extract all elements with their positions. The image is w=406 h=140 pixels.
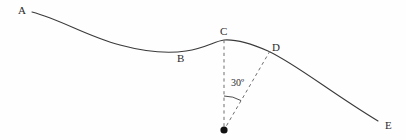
point-label-e: E xyxy=(385,120,392,131)
point-label-a: A xyxy=(18,5,26,16)
angle-value-label: 30º xyxy=(231,78,244,88)
point-label-c: C xyxy=(220,26,227,37)
figure-container: A B C D E 30º xyxy=(0,0,406,140)
diagram-canvas xyxy=(0,0,406,140)
point-label-b: B xyxy=(177,53,184,64)
origin-dot xyxy=(220,126,227,133)
point-label-d: D xyxy=(272,42,280,53)
main-curve xyxy=(32,12,378,121)
slanted-dashed-line xyxy=(224,51,270,130)
angle-arc xyxy=(224,96,241,101)
